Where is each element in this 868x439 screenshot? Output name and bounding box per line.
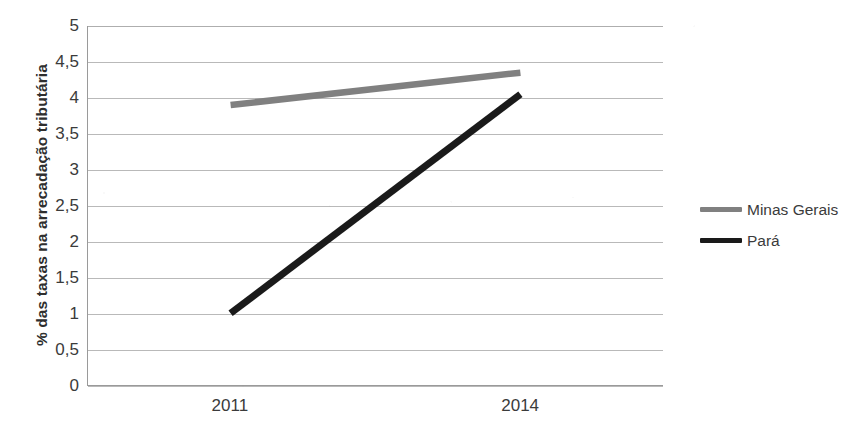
line-chart: % das taxas na arrecadação tributária 00… [0, 0, 868, 439]
x-axis-tick-labels: 20112014 [87, 396, 663, 430]
y-axis-tick-label: 0 [34, 376, 79, 396]
y-axis-tick-label: 2,5 [34, 196, 79, 216]
legend-label: Minas Gerais [747, 201, 838, 219]
legend-line-swatch [700, 207, 742, 212]
y-axis-tick-label: 0,5 [34, 340, 79, 360]
legend-line-swatch [700, 238, 742, 243]
y-axis-tick-label: 3,5 [34, 124, 79, 144]
y-axis-tick-label: 4 [34, 88, 79, 108]
y-axis-tick-labels: 00,511,522,533,544,55 [34, 26, 79, 386]
data-line-pará [231, 94, 521, 313]
chart-legend: Minas GeraisPará [700, 194, 868, 256]
y-axis-tick-label: 5 [34, 16, 79, 36]
y-axis-tick-label: 1 [34, 304, 79, 324]
gridline [88, 386, 663, 387]
y-axis-tick-label: 1,5 [34, 268, 79, 288]
y-axis-tick-label: 2 [34, 232, 79, 252]
legend-label: Pará [747, 232, 780, 250]
y-axis-tick-label: 4,5 [34, 52, 79, 72]
y-axis-tick-label: 3 [34, 160, 79, 180]
x-axis-tick-label: 2011 [170, 396, 290, 416]
legend-item[interactable]: Minas Gerais [700, 194, 868, 225]
plot-area [87, 26, 663, 386]
x-axis-tick-label: 2014 [460, 396, 580, 416]
data-lines [88, 26, 663, 385]
legend-item[interactable]: Pará [700, 225, 868, 256]
data-line-minas-gerais [231, 73, 521, 105]
